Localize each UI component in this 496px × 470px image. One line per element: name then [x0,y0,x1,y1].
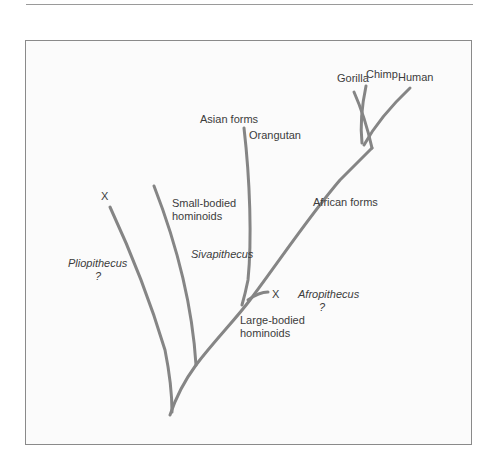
branch-trunk [170,148,372,415]
label-large-bodied-2: hominoids [240,327,291,339]
extinct-marker-pliopithecus: X [101,190,109,202]
label-gorilla: Gorilla [337,72,370,84]
branch-afropithecus [248,292,268,300]
label-pliopithecus-q: ? [95,270,102,282]
label-afropithecus-q: ? [319,301,326,313]
label-small-bodied-1: Small-bodied [172,197,236,209]
label-small-bodied-2: hominoids [172,210,223,222]
branch-orangutan [242,128,250,305]
branch-pliopithecus [110,207,172,412]
label-human: Human [398,71,433,83]
label-pliopithecus: Pliopithecus [68,257,128,269]
label-chimp: Chimp [366,68,398,80]
label-asian-forms: Asian forms [200,113,259,125]
label-african-forms: African forms [313,196,378,208]
branch-human [364,88,410,145]
label-sivapithecus: Sivapithecus [191,248,254,260]
label-afropithecus: Afropithecus [297,288,360,300]
extinct-marker-afropithecus: X [272,288,280,300]
phylogenetic-tree: Gorilla Chimp Human Asian forms Oranguta… [0,0,496,470]
label-large-bodied-1: Large-bodied [240,314,305,326]
label-orangutan: Orangutan [249,129,301,141]
